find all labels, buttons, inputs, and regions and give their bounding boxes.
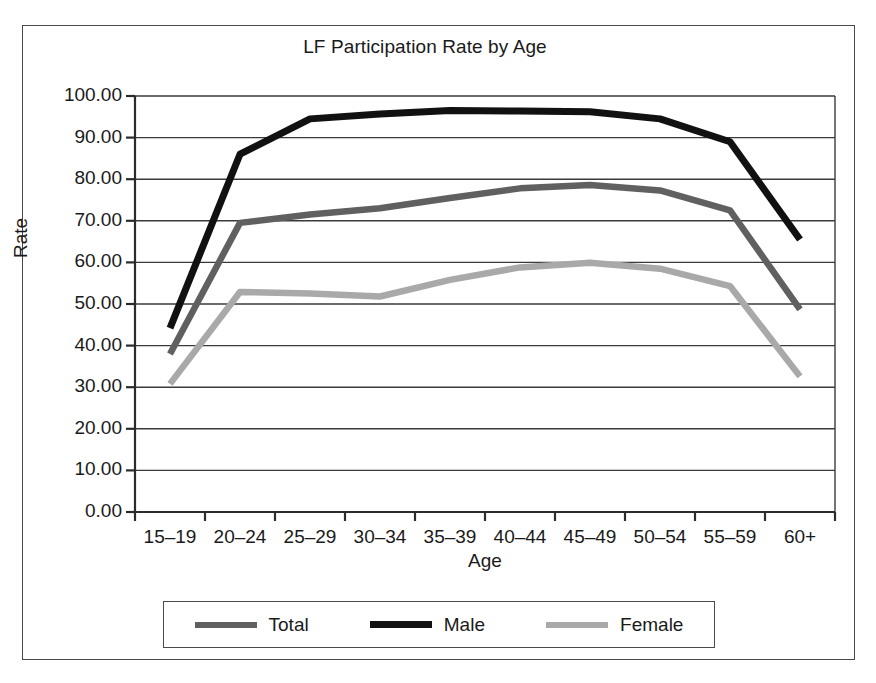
x-tick-label: 35–39 (415, 526, 485, 548)
legend-label: Female (620, 614, 683, 636)
legend-item-male[interactable]: Male (370, 614, 485, 636)
x-tick-label: 40–44 (485, 526, 555, 548)
y-tick-label: 0.00 (32, 500, 122, 522)
x-tick-label: 60+ (765, 526, 835, 548)
legend-swatch-female-icon (546, 622, 608, 628)
legend-item-female[interactable]: Female (546, 614, 683, 636)
y-tick-label: 10.00 (32, 458, 122, 480)
legend-item-total[interactable]: Total (195, 614, 309, 636)
y-tick-label: 80.00 (32, 167, 122, 189)
y-tick-label: 60.00 (32, 250, 122, 272)
x-tick-label: 20–24 (205, 526, 275, 548)
y-tick-label: 30.00 (32, 375, 122, 397)
x-tick-label: 30–34 (345, 526, 415, 548)
x-axis-ticks (135, 512, 835, 521)
legend-label: Male (444, 614, 485, 636)
x-tick-label: 25–29 (275, 526, 345, 548)
x-tick-label: 50–54 (625, 526, 695, 548)
y-axis-ticks (126, 96, 135, 512)
x-tick-label: 45–49 (555, 526, 625, 548)
x-tick-label: 15–19 (135, 526, 205, 548)
chart-legend: TotalMaleFemale (163, 601, 715, 648)
plot-area: 0.0010.0020.0030.0040.0050.0060.0070.008… (0, 0, 876, 683)
legend-swatch-total-icon (195, 622, 257, 628)
y-tick-label: 100.00 (32, 84, 122, 106)
plot-svg (0, 0, 876, 683)
x-axis-label: Age (135, 550, 835, 572)
y-tick-label: 90.00 (32, 126, 122, 148)
legend-label: Total (269, 614, 309, 636)
data-series-group (170, 111, 800, 384)
legend-swatch-male-icon (370, 621, 432, 628)
chart-figure: LF Participation Rate by Age 0.0010.0020… (0, 0, 876, 683)
series-line-total (170, 185, 800, 354)
y-tick-label: 70.00 (32, 209, 122, 231)
y-tick-label: 50.00 (32, 292, 122, 314)
series-line-female (170, 263, 800, 384)
y-axis-label: Rate (10, 218, 32, 258)
x-tick-label: 55–59 (695, 526, 765, 548)
y-tick-label: 40.00 (32, 334, 122, 356)
y-tick-label: 20.00 (32, 417, 122, 439)
